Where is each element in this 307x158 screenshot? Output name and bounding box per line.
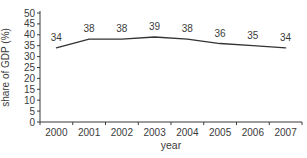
y-axis-title: share of GDP (%): [0, 28, 11, 107]
gdp-share-line-chart: 0510152025303540455020002001200220032004…: [0, 0, 307, 158]
x-tick-label: 2001: [78, 127, 101, 138]
x-axis-title: year: [161, 139, 182, 151]
x-tick-label: 2003: [144, 127, 167, 138]
y-tick-label: 15: [24, 84, 36, 95]
data-label: 38: [116, 23, 128, 34]
data-label: 34: [51, 32, 63, 43]
y-tick-label: 50: [24, 8, 36, 19]
y-tick-label: 0: [29, 117, 35, 128]
x-tick-label: 2006: [242, 127, 265, 138]
y-tick-label: 40: [24, 29, 36, 40]
data-label: 38: [182, 23, 194, 34]
chart-canvas: 0510152025303540455020002001200220032004…: [0, 0, 307, 158]
data-label: 36: [215, 28, 227, 39]
y-tick-label: 30: [24, 51, 36, 62]
y-tick-label: 20: [24, 73, 36, 84]
y-tick-label: 35: [24, 40, 36, 51]
data-label: 34: [280, 32, 292, 43]
x-tick-label: 2002: [111, 127, 134, 138]
x-tick-label: 2005: [209, 127, 232, 138]
x-tick-label: 2007: [275, 127, 298, 138]
y-tick-label: 10: [24, 95, 36, 106]
y-tick-label: 45: [24, 18, 36, 29]
x-tick-label: 2004: [176, 127, 199, 138]
data-label: 35: [247, 30, 259, 41]
data-label: 39: [149, 21, 161, 32]
x-tick-label: 2000: [45, 127, 68, 138]
y-tick-label: 25: [24, 62, 36, 73]
y-tick-label: 5: [29, 106, 35, 117]
data-label: 38: [84, 23, 96, 34]
